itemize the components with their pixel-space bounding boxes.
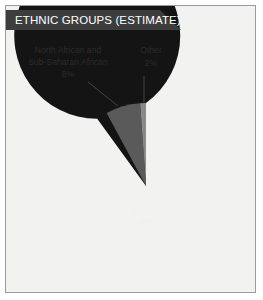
slice-label-french: French 90% [101, 204, 191, 228]
callout-north-african-line1: North African and [35, 45, 101, 55]
chart-panel: ETHNIC GROUPS (ESTIMATE) North African a… [5, 5, 256, 293]
callout-other-line1: Other [140, 45, 162, 55]
callout-north-african-percent: 8% [14, 69, 122, 81]
pie-slice-french [14, 6, 180, 186]
slice-label-french-percent: 90% [101, 216, 191, 228]
callout-north-african-line2: Sub-Saharan African [28, 57, 107, 67]
page-title: ETHNIC GROUPS (ESTIMATE) [15, 14, 181, 26]
callout-other: Other 2% [125, 45, 177, 69]
callout-other-percent: 2% [125, 58, 177, 70]
slice-label-french-name: French [133, 205, 160, 215]
callout-north-african: North African and Sub-Saharan African 8% [14, 45, 122, 81]
pie-slice-north-african [107, 103, 146, 186]
title-banner: ETHNIC GROUPS (ESTIMATE) [6, 10, 181, 30]
